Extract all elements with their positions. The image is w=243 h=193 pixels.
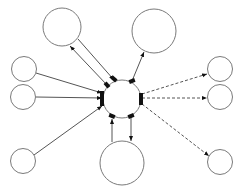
nodes — [11, 8, 233, 185]
edge-hub-to-right-1 — [142, 74, 207, 94]
port-marker — [139, 93, 143, 105]
port-marker — [128, 78, 135, 84]
port-marker — [100, 91, 104, 106]
node-left-2[interactable] — [11, 85, 36, 110]
edge-left-1-to-hub — [36, 73, 102, 93]
edge-hub-to-top-right — [132, 52, 144, 81]
edge-left-3-to-hub — [34, 106, 102, 155]
node-bottom[interactable] — [100, 141, 144, 185]
node-top-right[interactable] — [132, 9, 176, 53]
network-diagram — [0, 0, 243, 193]
node-right-2[interactable] — [208, 85, 233, 110]
edge-hub-to-right-3 — [142, 104, 209, 156]
edge-left-2-to-hub — [36, 97, 102, 98]
node-left-1[interactable] — [12, 57, 37, 82]
node-right-3[interactable] — [208, 150, 233, 175]
node-top-left[interactable] — [43, 8, 81, 46]
node-left-3[interactable] — [11, 149, 36, 174]
node-right-1[interactable] — [208, 57, 233, 82]
